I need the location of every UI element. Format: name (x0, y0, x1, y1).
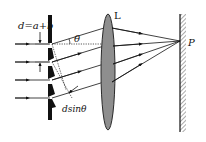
path-difference-label: dsinθ (62, 104, 87, 114)
converging-rays (112, 28, 180, 82)
screen (180, 14, 186, 132)
angle-label: θ (74, 33, 80, 44)
grating-bar (48, 99, 56, 120)
grating-bar (48, 84, 55, 97)
grating-bar (48, 48, 54, 61)
diffraction-grating-diagram: d=a+b θ L P dsinθ (0, 0, 206, 142)
lens-label: L (114, 10, 121, 21)
path-difference-construction (52, 44, 72, 98)
incident-rays (15, 44, 50, 98)
grating-bar (48, 66, 55, 79)
grating-constant-label: d=a+b (18, 20, 54, 31)
point-label: P (187, 37, 195, 48)
lens (101, 14, 115, 130)
angle-arc (69, 39, 70, 44)
grating-spacing-indicator (35, 32, 49, 72)
